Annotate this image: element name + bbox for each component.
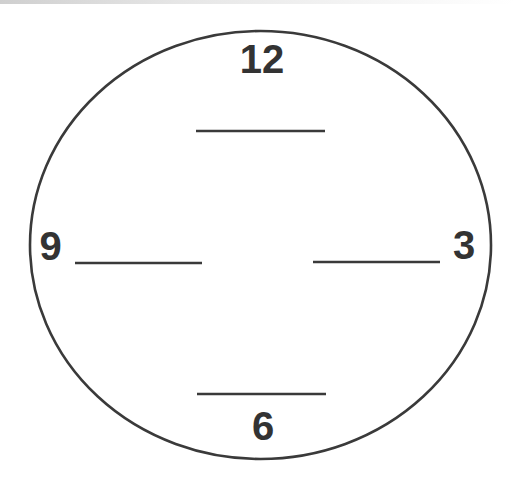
numeral-3: 3 <box>453 223 475 267</box>
numeral-9: 9 <box>39 224 61 268</box>
numeral-6: 6 <box>252 404 274 448</box>
clock-face-diagram: 12 3 6 9 <box>0 0 514 488</box>
numeral-12: 12 <box>240 37 285 81</box>
